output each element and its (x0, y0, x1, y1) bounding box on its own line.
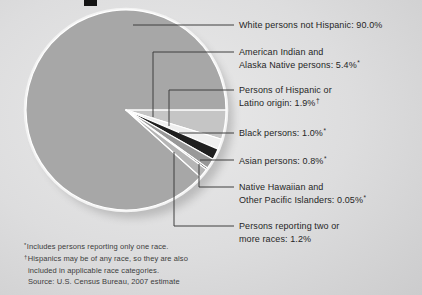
footnote-marker: * (364, 194, 367, 201)
footnote-text: Hispanics may be of any race, so they ar… (28, 254, 188, 263)
source-line: Source: U.S. Census Bureau, 2007 estimat… (28, 276, 188, 287)
footnote-hispanic: †Hispanics may be of any race, so they a… (24, 253, 188, 265)
callout-white-not-hispanic: White persons not Hispanic: 90.0% (239, 19, 383, 33)
callout-text: Black persons: 1.0% (239, 128, 323, 138)
callout-native-hawaiian: Native Hawaiian and Other Pacific Island… (239, 181, 366, 207)
callout-text: American Indian and (239, 47, 323, 57)
callout-hispanic: Persons of Hispanic or Latino origin: 1.… (239, 84, 332, 110)
callout-text: White persons not Hispanic: 90.0% (239, 20, 382, 30)
callout-american-indian: American Indian and Alaska Native person… (239, 46, 360, 72)
callout-text: Persons of Hispanic or (239, 85, 332, 95)
footnote-hispanic-cont: included in applicable race categories. (28, 265, 188, 276)
callout-text: Persons reporting two or (239, 221, 339, 231)
callout-text: Latino origin: 1.9% (239, 98, 315, 108)
footnote-marker: * (324, 155, 327, 162)
footnote-marker: † (24, 254, 27, 260)
callout-black: Black persons: 1.0%* (239, 127, 326, 141)
callout-text: Other Pacific Islanders: 0.05% (239, 195, 363, 205)
callout-text: Alaska Native persons: 5.4% (239, 60, 357, 70)
footnotes: *Includes persons reporting only one rac… (24, 241, 188, 287)
callout-text: more races: 1.2% (239, 234, 311, 244)
footnote-one-race: *Includes persons reporting only one rac… (24, 241, 188, 253)
callout-text: Native Hawaiian and (239, 182, 323, 192)
callout-text: Asian persons: 0.8% (239, 156, 323, 166)
cropped-title-fragment (84, 0, 97, 6)
callout-asian: Asian persons: 0.8%* (239, 155, 327, 169)
callout-two-or-more: Persons reporting two or more races: 1.2… (239, 220, 339, 246)
footnote-marker: * (323, 127, 326, 134)
footnote-text: Includes persons reporting only one race… (27, 242, 169, 251)
footnote-marker: * (357, 59, 360, 66)
footnote-text: included in applicable race categories. (28, 266, 159, 275)
pie-chart-figure: White persons not Hispanic: 90.0% Americ… (0, 0, 422, 295)
footnote-text: Source: U.S. Census Bureau, 2007 estimat… (28, 277, 180, 286)
footnote-marker: † (316, 97, 320, 104)
